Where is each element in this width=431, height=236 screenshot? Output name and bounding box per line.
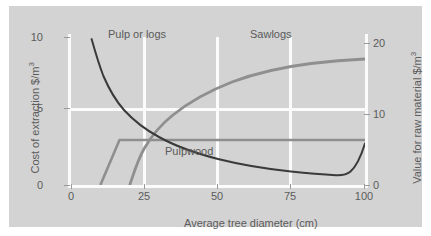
tick-x-25: [144, 184, 145, 189]
tick-x-50: [217, 184, 218, 189]
ticklabel-right-20: 20: [373, 38, 385, 49]
axis-title-right-superscript: 3: [409, 52, 418, 56]
ticklabel-x-25: 25: [124, 191, 164, 202]
axis-title-right-text: Value for raw material $/m: [411, 56, 423, 184]
axis-title-x: Average tree diameter (cm): [184, 217, 318, 229]
series-curves: [71, 37, 365, 185]
ticklabel-right-0: 0: [373, 180, 379, 191]
tick-x-0: [71, 184, 72, 189]
series-label-sawlogs: Sawlogs: [250, 28, 292, 40]
tick-right-10: [364, 114, 370, 115]
tick-x-75: [290, 184, 291, 189]
ticklabel-x-50: 50: [197, 191, 237, 202]
chart-card: Pulp or logs Sawlogs Pulpwood 10 5 0 20 …: [9, 6, 422, 227]
ticklabel-x-100: 100: [344, 191, 384, 202]
ticklabel-x-0: 0: [51, 191, 91, 202]
series-label-pulp-or-logs: Pulp or logs: [108, 28, 166, 40]
ticklabel-x-75: 75: [270, 191, 310, 202]
chart-figure: Pulp or logs Sawlogs Pulpwood 10 5 0 20 …: [0, 0, 431, 236]
series-line-pulp-or-logs: [92, 39, 365, 175]
axis-left-spine: [68, 34, 71, 188]
tick-x-100: [364, 184, 365, 189]
axis-title-left-text: Cost of extraction $/m: [29, 67, 41, 174]
ticklabel-left-10: 10: [31, 32, 43, 43]
plot-area: Pulp or logs Sawlogs Pulpwood: [71, 37, 365, 185]
tick-left-5: [64, 108, 70, 109]
tick-right-20: [364, 43, 370, 44]
axis-title-left: Cost of extraction $/m3: [27, 48, 41, 188]
series-label-pulpwood: Pulpwood: [165, 145, 213, 157]
axis-title-left-superscript: 3: [27, 62, 36, 66]
tick-left-0: [64, 185, 70, 186]
axis-bottom-spine: [68, 185, 368, 188]
ticklabel-right-10: 10: [373, 109, 385, 120]
tick-left-10: [64, 37, 70, 38]
axis-right-spine: [365, 34, 368, 188]
axis-title-right: Value for raw material $/m3: [409, 48, 423, 188]
